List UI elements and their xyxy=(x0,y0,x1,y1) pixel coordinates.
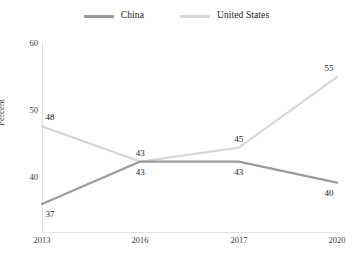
point-label-china: 40 xyxy=(316,189,342,198)
line-chart: China United States Percent 60 50 40 201… xyxy=(0,0,353,267)
point-label-china: 43 xyxy=(127,168,153,177)
point-label-united-states: 45 xyxy=(226,135,252,144)
point-label-united-states: 43 xyxy=(127,149,153,158)
point-label-china: 37 xyxy=(37,210,63,219)
plot-area xyxy=(0,0,353,267)
point-label-china: 43 xyxy=(226,168,252,177)
point-label-united-states: 55 xyxy=(316,64,342,73)
line-series-united-states xyxy=(42,77,337,161)
point-label-united-states: 48 xyxy=(37,113,63,122)
line-series-china xyxy=(42,162,337,204)
